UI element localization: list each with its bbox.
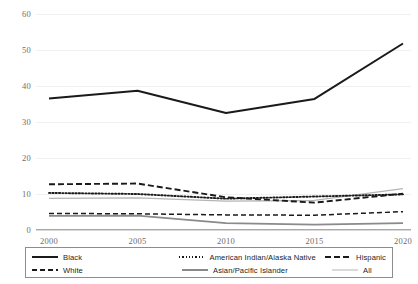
line-chart-figure: 0102030405060 20002005201020152020 Black… [0,0,418,284]
y-tick-label-0: 0 [27,225,31,235]
legend-item-black[interactable]: Black [32,252,179,262]
legend-swatch-hispanic [325,252,351,262]
series-lines [36,14,411,230]
y-tick-label-60: 60 [22,9,31,19]
series-line-white [49,212,403,216]
x-tick-label-2015: 2015 [306,236,324,246]
x-tick-label-2000: 2000 [40,236,58,246]
x-tick-label-2005: 2005 [129,236,147,246]
legend-swatch-black [32,252,58,262]
y-tick-label-40: 40 [22,81,31,91]
x-tick-label-2010: 2010 [217,236,235,246]
y-tick-label-50: 50 [22,45,31,55]
legend-item-asian-pacific-islander[interactable]: Asian/Pacific Islander [182,265,332,275]
y-tick-label-10: 10 [22,189,31,199]
series-line-black [49,44,403,113]
legend-item-american-indian-alaska-native[interactable]: American Indian/Alaska Native [179,252,326,262]
legend-label-all: All [363,266,372,275]
legend-row-1: Black American Indian/Alaska Native Hisp… [32,251,386,263]
y-tick-label-20: 20 [22,153,31,163]
legend-row-2: White Asian/Pacific Islander All [32,264,386,276]
x-tick-label-2020: 2020 [394,236,412,246]
legend-item-white[interactable]: White [32,265,182,275]
y-tick-label-30: 30 [22,117,31,127]
legend-swatch-white [32,265,58,275]
chart-legend: Black American Indian/Alaska Native Hisp… [25,247,393,278]
plot-area: 0102030405060 20002005201020152020 [36,14,411,230]
legend-swatch-asian-pacific-islander [182,265,208,275]
legend-item-hispanic[interactable]: Hispanic [325,252,386,262]
legend-label-asian-pacific-islander: Asian/Pacific Islander [213,266,288,275]
legend-swatch-american-indian-alaska-native [179,252,205,262]
legend-swatch-all [332,265,358,275]
legend-item-all[interactable]: All [332,265,372,275]
legend-label-hispanic: Hispanic [356,253,386,262]
gridline-0 [36,230,411,231]
legend-label-white: White [63,266,83,275]
series-line-asian-pacific-islander [49,216,403,225]
legend-label-american-indian-alaska-native: American Indian/Alaska Native [210,253,316,262]
legend-label-black: Black [63,253,82,262]
